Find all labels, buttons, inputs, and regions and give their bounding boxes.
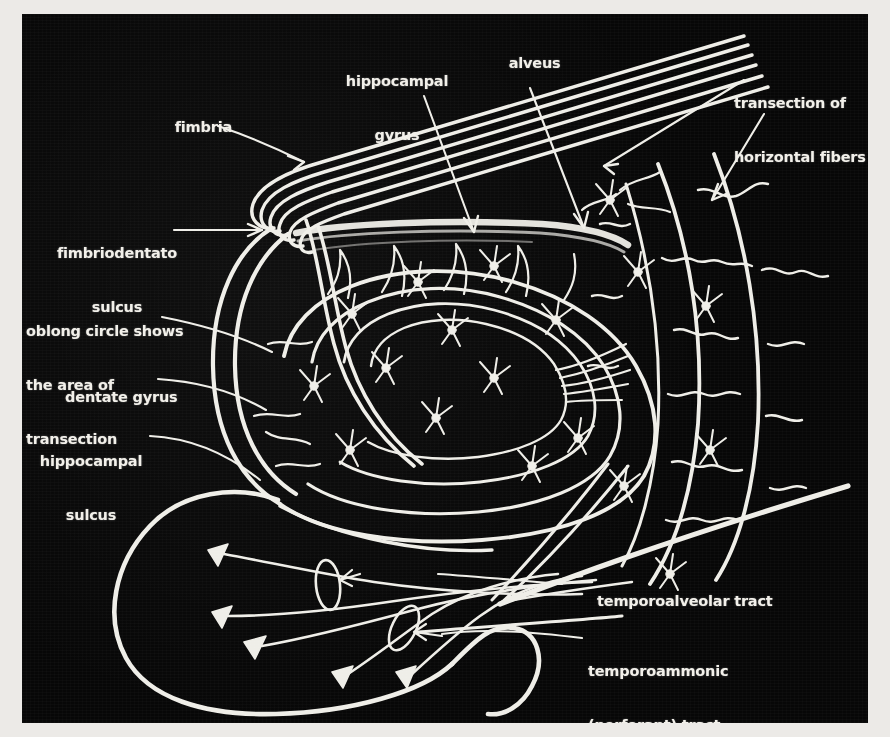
label-hippocampal-gyrus-line2: gyrus — [332, 126, 462, 144]
left-lobe-branches — [254, 342, 320, 466]
lower-lobe-hook — [452, 627, 539, 714]
leader-temporoammonic — [442, 631, 582, 638]
fimbriodentato-sulcus-curve — [306, 220, 422, 466]
label-temporoammonic-line2: (perforant) tract — [588, 716, 768, 723]
label-fimbria: fimbria — [142, 100, 232, 154]
anatomical-plate: fimbria hippocampal gyrus alveus transec… — [22, 14, 868, 723]
label-temporoammonic-line1: temporoammonic — [588, 662, 768, 680]
label-oblong-line1: oblong circle shows — [26, 322, 186, 340]
label-hippocampal-gyrus: hippocampal gyrus — [332, 36, 462, 180]
arrowhead-transection-stub — [604, 164, 618, 174]
label-temporoammonic-tract: temporoammonic (perforant) tract — [588, 626, 768, 723]
dentate-gyrus-outline — [213, 228, 296, 504]
label-hippocampal-sulcus-line1: hippocampal — [30, 452, 152, 470]
label-fimbriodentato-line1: fimbriodentato — [56, 244, 178, 262]
label-hippocampal-sulcus-line2: sulcus — [30, 506, 152, 524]
figure-page: fimbria hippocampal gyrus alveus transec… — [0, 0, 890, 737]
upper-right-sprays — [582, 172, 670, 212]
label-alveus: alveus — [474, 36, 566, 90]
label-transection-horizontal-fibers: transection of horizontal fibers — [734, 58, 868, 202]
label-hippocampal-gyrus-line1: hippocampal — [332, 72, 462, 90]
label-temporoalveolar-tract: temporoalveolar tract — [568, 574, 758, 628]
alveus-band — [296, 222, 628, 252]
label-transection-line2: horizontal fibers — [734, 148, 868, 166]
label-hippocampal-sulcus: hippocampal sulcus — [30, 416, 152, 560]
label-transection-line1: transection of — [734, 94, 868, 112]
